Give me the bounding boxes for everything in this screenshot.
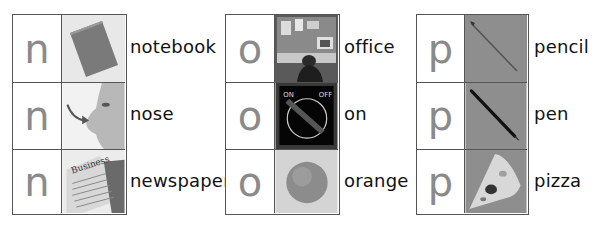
letter-cell: o (226, 15, 275, 82)
letter-group-o: o o ONOFF o office on orange (225, 14, 415, 214)
letter-group-n: n n n Business notebook nose newspaper (12, 14, 212, 214)
row-office: o (226, 15, 338, 82)
office-image (275, 15, 338, 82)
grid-o: o o ONOFF o (225, 14, 340, 215)
orange-image (275, 150, 338, 213)
row-newspaper: n Business (13, 149, 125, 213)
row-on: o ONOFF (226, 82, 338, 149)
row-notebook: n (13, 15, 125, 82)
word-label: newspaper (130, 170, 231, 191)
letter-cell: p (417, 15, 465, 82)
word-label: orange (344, 170, 409, 191)
notebook-image (62, 15, 125, 82)
letter-cell: n (13, 83, 62, 149)
word-label: on (344, 103, 367, 124)
on-switch-image: ONOFF (275, 83, 338, 149)
pen-image (465, 83, 527, 149)
pencil-image (465, 15, 527, 82)
row-orange: o (226, 149, 338, 213)
svg-text:OFF: OFF (319, 91, 332, 99)
letter-cell: p (417, 150, 465, 213)
word-label: notebook (130, 36, 216, 57)
word-label: pizza (534, 170, 581, 191)
row-nose: n (13, 82, 125, 149)
letter-cell: n (13, 150, 62, 213)
nose-image (62, 83, 125, 149)
svg-text:ON: ON (283, 91, 294, 99)
letter-group-p: p p p pencil pen pizza (416, 14, 597, 214)
word-label: pencil (534, 36, 589, 57)
row-pen: p (417, 82, 527, 149)
row-pizza: p (417, 149, 527, 213)
letter-cell: n (13, 15, 62, 82)
word-label: pen (534, 103, 569, 124)
word-label: office (344, 36, 395, 57)
word-label: nose (130, 103, 174, 124)
pizza-image (465, 150, 527, 213)
row-pencil: p (417, 15, 527, 82)
letter-cell: o (226, 83, 275, 149)
grid-n: n n n Business (12, 14, 127, 215)
newspaper-image: Business (62, 150, 125, 213)
letter-cell: o (226, 150, 275, 213)
grid-p: p p p (416, 14, 529, 215)
letter-cell: p (417, 83, 465, 149)
